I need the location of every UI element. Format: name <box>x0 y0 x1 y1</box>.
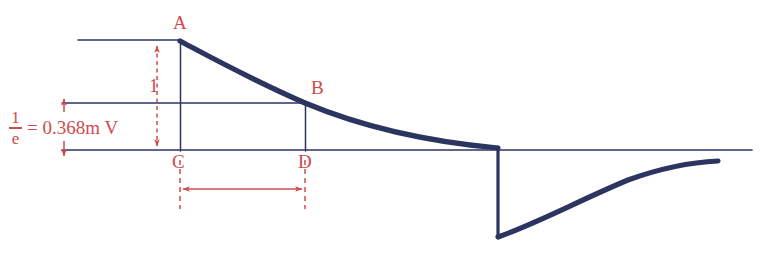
one-over-e-expression: 1 e = 0.368m V <box>9 109 118 147</box>
fraction-numerator: 1 <box>9 109 22 127</box>
label-point-b: B <box>311 78 324 97</box>
fraction-denominator: e <box>10 129 22 147</box>
waveform-curves <box>180 41 718 237</box>
exponential-decay-figure: A B C D 1 1 e = 0.368m V <box>0 0 764 259</box>
label-amplitude-one: 1 <box>149 76 159 95</box>
fraction-one-over-e: 1 e <box>9 109 22 147</box>
one-over-e-value-text: = 0.368m V <box>27 117 118 139</box>
negative-recovery-curve <box>498 161 718 237</box>
label-point-c: C <box>172 152 185 171</box>
label-point-a: A <box>173 13 187 32</box>
label-point-d: D <box>298 152 312 171</box>
positive-decay-curve <box>180 41 498 148</box>
